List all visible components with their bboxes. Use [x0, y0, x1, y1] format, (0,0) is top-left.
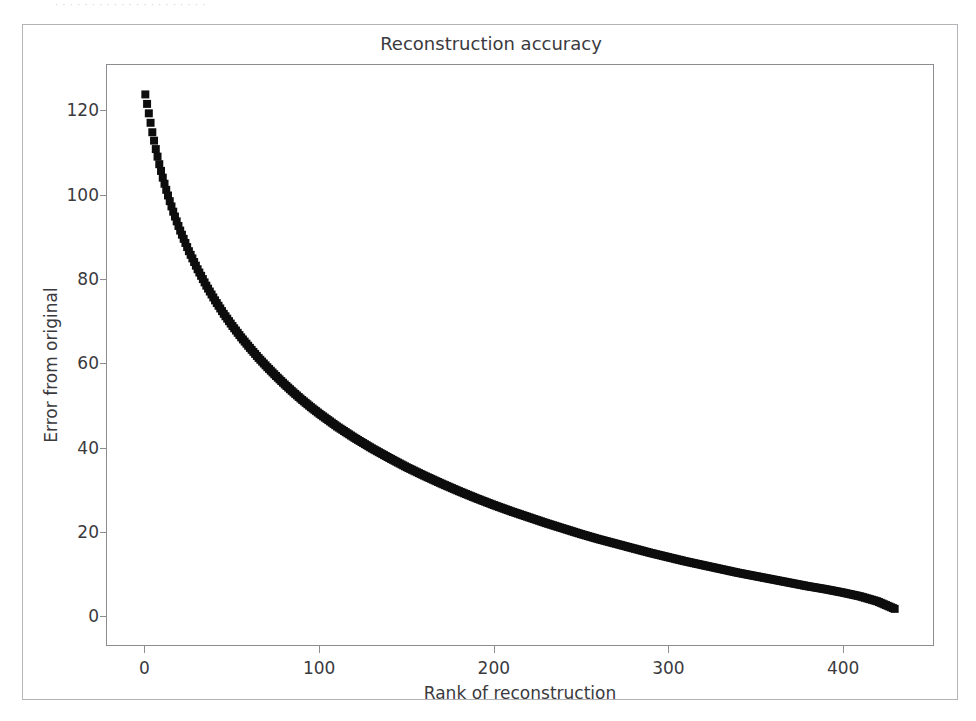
- data-point-marker: [150, 137, 158, 145]
- figure-inner: Reconstruction accuracy 020406080100120 …: [23, 25, 959, 701]
- x-axis-tick-mark: [668, 646, 669, 653]
- page-title: Reconstruction accuracy: [23, 33, 959, 54]
- data-point-marker: [143, 100, 151, 108]
- y-axis-tick-label: 100: [39, 185, 99, 205]
- x-axis-tick-mark: [843, 646, 844, 653]
- data-point-marker: [891, 605, 899, 613]
- scatter-plot-svg: [107, 65, 933, 645]
- y-axis-tick-mark: [100, 532, 107, 533]
- y-axis-tick-mark: [100, 448, 107, 449]
- data-point-marker: [154, 153, 162, 161]
- y-axis-tick-mark: [100, 279, 107, 280]
- y-axis-tick-labels: 020406080100120: [29, 64, 99, 646]
- y-axis-tick-mark: [100, 110, 107, 111]
- figure-frame: Reconstruction accuracy 020406080100120 …: [22, 24, 958, 700]
- x-axis-tick-mark: [319, 646, 320, 653]
- y-axis-tick-mark: [100, 195, 107, 196]
- data-point-marker: [145, 109, 153, 117]
- x-axis-tick-label: 100: [279, 658, 359, 678]
- scan-artifact-text: · · · · · · · · · · · · · · · · · · · · …: [55, 0, 755, 9]
- y-axis-tick-label: 120: [39, 100, 99, 120]
- y-axis-tick-mark: [100, 363, 107, 364]
- screenshot-page: · · · · · · · · · · · · · · · · · · · · …: [0, 0, 976, 721]
- x-axis-tick-mark: [144, 646, 145, 653]
- y-axis-tick-label: 20: [39, 522, 99, 542]
- plot-area: [106, 64, 934, 646]
- x-axis-tick-label: 0: [104, 658, 184, 678]
- data-point-marker: [148, 128, 156, 136]
- y-axis-label: Error from original: [41, 265, 61, 465]
- data-point-marker: [152, 145, 160, 153]
- x-axis-tick-label: 300: [628, 658, 708, 678]
- y-axis-tick-mark: [100, 616, 107, 617]
- data-point-marker: [147, 119, 155, 127]
- x-axis-tick-label: 400: [803, 658, 883, 678]
- x-axis-label: Rank of reconstruction: [106, 683, 934, 703]
- y-axis-tick-label: 0: [39, 606, 99, 626]
- x-axis-tick-mark: [494, 646, 495, 653]
- data-point-marker: [141, 90, 149, 98]
- x-axis-tick-label: 200: [454, 658, 534, 678]
